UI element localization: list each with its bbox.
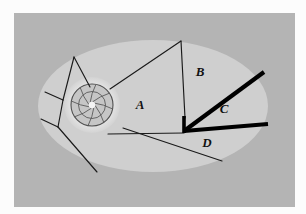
label-b: B [195, 64, 205, 79]
label-d: D [201, 135, 212, 150]
label-c: C [220, 101, 229, 116]
figure-root: ABCD [0, 0, 306, 214]
disk-core [89, 102, 95, 108]
label-a: A [135, 97, 145, 112]
diagram-canvas: ABCD [0, 0, 306, 214]
